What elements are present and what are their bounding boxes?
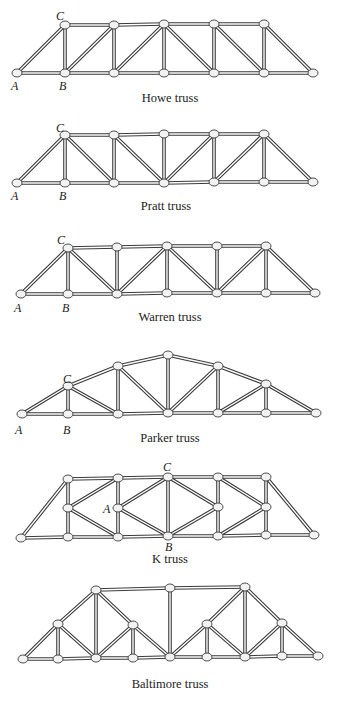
gusset-plate-node [308,69,318,77]
k-truss-caption: K truss [152,553,188,566]
truss-member [68,366,118,386]
truss-member [264,24,313,73]
gusset-plate-node [113,533,123,541]
gusset-plate-node [311,409,321,417]
truss-member [96,625,133,658]
gusset-plate-node [162,289,172,297]
gusset-plate-node [165,653,175,661]
gusset-plate-node [128,654,138,662]
truss-member [245,623,282,657]
truss-member [168,366,218,413]
howe-truss [12,20,318,77]
gusset-plate-node [53,655,63,663]
gusset-plate-node [163,473,173,481]
truss-member [214,134,264,182]
joint-label-b: B [63,424,70,436]
truss-member [58,590,96,624]
gusset-plate-node [113,504,123,512]
gusset-plate-node [63,533,73,541]
truss-member [117,246,167,294]
gusset-plate-node [213,503,223,511]
gusset-plate-node [91,654,101,662]
gusset-plate-node [159,179,169,187]
gusset-plate-node [259,20,269,28]
gusset-plate-node [308,178,318,186]
truss-member [117,246,167,247]
gusset-plate-node [165,584,175,592]
gusset-plate-node [53,620,63,628]
joint-label-a: A [11,80,18,92]
gusset-plate-node [109,179,119,187]
truss-member [266,246,315,293]
truss-member [68,248,117,294]
gusset-plate-node [112,290,122,298]
truss-member [118,366,168,413]
truss-member [17,135,65,183]
gusset-plate-node [63,475,73,483]
truss-member [167,246,217,293]
truss-member [114,24,164,73]
joint-label-a: A [14,302,21,314]
truss-member [65,135,114,183]
gusset-plate-node [310,289,320,297]
truss-member [266,384,316,413]
truss-member [21,479,68,538]
truss-member [218,535,266,536]
truss-member [218,507,266,536]
parker-truss-caption: Parker truss [140,432,199,445]
gusset-plate-node [113,410,123,418]
truss-member [164,182,214,183]
truss-member [118,477,168,478]
truss-member [23,624,58,659]
gusset-plate-node [213,473,223,481]
truss-member [170,587,245,588]
gusset-plate-node [261,473,271,481]
truss-member [168,507,218,536]
truss-member [68,478,118,479]
truss-member [17,25,65,73]
truss-member [96,590,133,625]
gusset-plate-node [162,242,172,250]
truss-member [68,386,118,414]
truss-member [114,135,164,183]
gusset-plate-node [163,409,173,417]
gusset-plate-node [261,409,271,417]
truss-member [168,477,218,507]
truss-member [58,624,96,658]
gusset-plate-node [259,130,269,138]
joint-label-b: B [62,302,69,314]
gusset-plate-node [12,179,22,187]
gusset-plate-node [163,532,173,540]
truss-member [118,413,168,414]
gusset-plate-node [18,655,28,663]
gusset-plate-node [209,130,219,138]
gusset-plate-node [109,69,119,77]
joint-label-c: C [56,122,64,134]
truss-member [118,536,168,537]
truss-member [264,134,313,182]
truss-member [58,658,96,659]
gusset-plate-node [259,69,269,77]
k-truss [16,473,319,542]
gusset-plate-node [209,69,219,77]
gusset-plate-node [63,504,73,512]
joint-label-a: A [11,190,18,202]
gusset-plate-node [17,410,27,418]
gusset-plate-node [163,351,173,359]
gusset-plate-node [277,652,287,660]
gusset-plate-node [202,653,212,661]
truss-member [282,623,318,656]
gusset-plate-node [159,20,169,28]
truss-member [68,247,117,248]
gusset-plate-node [202,620,212,628]
truss-member [68,508,118,537]
truss-member [218,366,266,384]
gusset-plate-node [212,242,222,250]
gusset-plate-node [213,362,223,370]
gusset-plate-node [128,621,138,629]
gusset-plate-node [60,69,70,77]
truss-member [217,246,266,293]
gusset-plate-node [240,653,250,661]
gusset-plate-node [209,178,219,186]
joint-label-b: B [59,190,66,202]
